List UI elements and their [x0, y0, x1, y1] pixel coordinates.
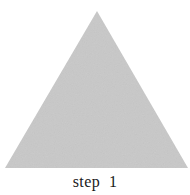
shape-canvas — [0, 0, 190, 195]
figure-container: step 1 — [0, 0, 190, 195]
caption-row: step 1 — [0, 174, 190, 190]
caption-label: step 1 — [73, 174, 118, 190]
